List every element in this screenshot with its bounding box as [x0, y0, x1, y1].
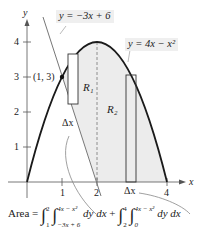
formula-term-2: dy dx: [157, 207, 181, 219]
y-tick-3: 3: [14, 72, 19, 82]
delta-x-label-2: Δx: [124, 186, 135, 196]
x-axis-label: x: [189, 177, 193, 187]
region-r1-label: R₁: [83, 82, 94, 93]
y-tick-1: 1: [14, 142, 19, 152]
parabola-equation-callout: y = 4x − x²: [125, 38, 178, 51]
integral-2-limits: 4x − x²−3x + 6: [57, 205, 80, 229]
integral-3-limits: 42: [123, 205, 127, 229]
x-axis-arrow-icon: [179, 180, 186, 185]
x-tick-4: 4: [164, 188, 169, 198]
y-axis-arrow-icon: [25, 19, 30, 26]
y-tick-2: 2: [14, 107, 19, 117]
integral-1-limits: 21: [46, 205, 50, 229]
y-axis-label: y: [23, 8, 27, 18]
formula-prefix: Area =: [8, 207, 38, 219]
callout-line-connector: [60, 26, 66, 34]
point-1-3: [60, 75, 64, 79]
integral-4-limits: 4x − x²0: [134, 205, 154, 229]
region-r2-label: R₂: [107, 104, 118, 115]
delta-x-label-1: Δx: [62, 118, 73, 128]
rectangle-r1: [68, 54, 78, 104]
x-tick-1: 1: [60, 188, 65, 198]
area-formula: Area = ∫21 ∫4x − x²−3x + 6 dy dx + ∫42 ∫…: [8, 205, 181, 229]
x-tick-2: 2: [94, 188, 99, 198]
area-diagram: [0, 0, 200, 236]
line-equation-callout: y = −3x + 6: [56, 10, 114, 23]
y-tick-4: 4: [14, 37, 19, 47]
point-label: (1, 3): [33, 72, 55, 82]
formula-term-1: dy dx: [83, 207, 107, 219]
callout-parabola-connector: [128, 50, 130, 62]
formula-plus: +: [109, 207, 115, 219]
